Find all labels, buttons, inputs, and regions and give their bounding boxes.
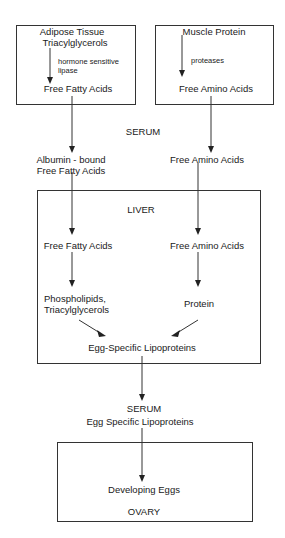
free-amino-acids-muscle: Free Amino Acids	[179, 83, 253, 94]
serum-label-1: SERUM	[126, 126, 160, 137]
free-fatty-acids-adipose: Free Fatty Acids	[44, 83, 113, 94]
developing-eggs-label: Developing Eggs	[108, 484, 180, 495]
egg-specific-lipoproteins-liver: Egg-Specific Lipoproteins	[88, 342, 196, 353]
lipase-label: lipase	[58, 66, 78, 75]
albumin-bound-label: Albumin - bound	[36, 154, 105, 165]
phospholipids-label: Phospholipids,	[44, 293, 106, 304]
serum-free-amino-acids-label: Free Amino Acids	[170, 154, 244, 165]
serum-free-fatty-acids-label: Free Fatty Acids	[37, 165, 106, 176]
ovary-label: OVARY	[128, 506, 160, 517]
serum-label-2: SERUM	[127, 403, 161, 414]
liver-free-amino-acids: Free Amino Acids	[170, 240, 244, 251]
arrow-connectors	[0, 0, 285, 538]
triacylglycerols-label: Triacylglycerols	[42, 37, 107, 48]
liver-triacylglycerols-label: Triacylglycerols	[44, 304, 109, 315]
serum-egg-specific-lipoproteins: Egg Specific Lipoproteins	[86, 416, 193, 427]
liver-free-fatty-acids: Free Fatty Acids	[44, 240, 113, 251]
adipose-tissue-label: Adipose Tissue	[40, 26, 104, 37]
hormone-sensitive-label: hormone sensitive	[58, 57, 119, 66]
proteases-label: proteases	[191, 56, 224, 65]
muscle-protein-label: Muscle Protein	[183, 26, 246, 37]
protein-label: Protein	[184, 298, 214, 309]
liver-label: LIVER	[127, 204, 154, 215]
